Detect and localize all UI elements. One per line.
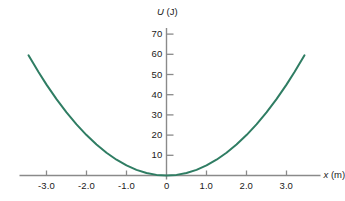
- x-axis-unit: (m): [331, 169, 345, 180]
- y-tick-label: 50: [152, 69, 163, 80]
- x-tick-label: 0: [164, 180, 169, 191]
- y-tick-label: 60: [152, 48, 163, 59]
- y-tick-label: 30: [152, 109, 163, 120]
- x-tick-label: -3.0: [38, 180, 55, 191]
- x-tick-label: -2.0: [78, 180, 95, 191]
- y-tick-label: 40: [152, 89, 163, 100]
- x-tick-label: 3.0: [280, 180, 294, 191]
- y-axis-unit: (J): [167, 6, 178, 17]
- x-axis-symbol: x: [324, 169, 329, 180]
- y-tick-label: 20: [152, 129, 163, 140]
- y-tick-label: 10: [152, 149, 163, 160]
- chart-background: [0, 0, 345, 201]
- potential-energy-chart: -3.0-2.0-1.001.02.03.010203040506070U (J…: [0, 0, 345, 201]
- x-tick-label: -1.0: [118, 180, 135, 191]
- y-tick-label: 70: [152, 28, 163, 39]
- x-tick-label: 2.0: [240, 180, 254, 191]
- chart-plot-area: [0, 0, 345, 201]
- x-tick-label: 1.0: [200, 180, 214, 191]
- y-axis-symbol: U: [157, 6, 164, 17]
- x-axis-title: x (m): [324, 169, 345, 180]
- y-axis-title: U (J): [157, 6, 178, 17]
